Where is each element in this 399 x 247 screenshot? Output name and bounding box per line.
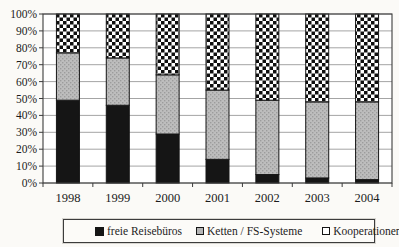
- y-axis-label: 50%: [16, 93, 38, 105]
- y-axis-label: 30%: [16, 126, 38, 138]
- chart-canvas: 100%90%80%70%60%50%40%30%20%10%0%1998199…: [0, 0, 399, 247]
- x-axis-label: 2003: [305, 191, 330, 205]
- x-axis-label: 1999: [105, 191, 130, 205]
- legend-label: freie Reisebüros: [107, 225, 182, 237]
- x-axis-label: 1998: [55, 191, 80, 205]
- y-axis-label: 80%: [16, 42, 38, 54]
- y-axis-label: 60%: [16, 76, 38, 88]
- bar-segment-solid-black: [106, 105, 129, 183]
- bar-segment-gray-halftone: [156, 75, 179, 134]
- legend-item-ketten-fs-systeme: Ketten / FS-Systeme: [196, 225, 302, 237]
- stacked-bar-chart-figure: 100%90%80%70%60%50%40%30%20%10%0%1998199…: [0, 0, 399, 247]
- y-axis-label: 0%: [22, 177, 38, 189]
- bar-segment-checkerboard: [256, 14, 279, 100]
- plot-area: 100%90%80%70%60%50%40%30%20%10%0%1998199…: [10, 8, 392, 205]
- bar-segment-gray-halftone: [106, 58, 129, 105]
- bar-segment-checkerboard: [156, 14, 179, 75]
- bar-segment-gray-halftone: [206, 90, 229, 159]
- bar-segment-checkerboard: [356, 14, 379, 102]
- bar-segment-checkerboard: [56, 14, 79, 53]
- y-axis-label: 100%: [10, 8, 37, 20]
- bar-segment-gray-halftone: [356, 102, 379, 180]
- bar-segment-checkerboard: [306, 14, 329, 102]
- legend-label: Kooperationen: [333, 225, 399, 237]
- bar-segment-gray-halftone: [256, 100, 279, 174]
- x-axis-label: 2001: [205, 191, 230, 205]
- x-axis-label: 2004: [355, 191, 381, 205]
- bar-segment-solid-black: [56, 100, 79, 183]
- y-axis-label: 10%: [16, 160, 38, 172]
- bar-segment-solid-black: [156, 134, 179, 183]
- y-axis-label: 70%: [16, 59, 38, 71]
- legend-item-kooperationen: Kooperationen: [322, 225, 399, 237]
- bar-segment-gray-halftone: [306, 102, 329, 178]
- bar-segment-solid-black: [206, 159, 229, 183]
- black-square-icon: [95, 227, 104, 236]
- x-axis-label: 2000: [155, 191, 180, 205]
- y-axis-label: 40%: [16, 109, 38, 121]
- legend-label: Ketten / FS-Systeme: [207, 225, 302, 237]
- bar-segment-checkerboard: [206, 14, 229, 90]
- gray-square-icon: [196, 227, 204, 235]
- x-axis-label: 2002: [255, 191, 280, 205]
- bar-segment-solid-black: [256, 175, 279, 183]
- bar-segment-solid-black: [306, 178, 329, 183]
- bar-segment-gray-halftone: [56, 53, 79, 100]
- checkered-square-icon: [322, 227, 330, 235]
- chart-legend: freie Reisebüros Ketten / FS-Systeme Koo…: [63, 219, 375, 243]
- y-axis-label: 20%: [16, 143, 38, 155]
- y-axis-label: 90%: [16, 25, 38, 37]
- legend-item-freie-reisebueros: freie Reisebüros: [95, 225, 182, 237]
- bar-segment-checkerboard: [106, 14, 129, 58]
